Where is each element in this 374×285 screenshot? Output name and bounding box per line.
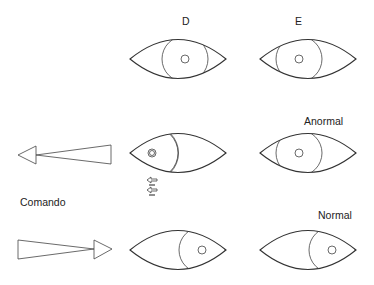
column-label-right-eye: D: [182, 15, 190, 27]
right-eye-abnormal: [124, 126, 227, 181]
left-eye-normal: [260, 227, 356, 273]
column-label-left-eye: E: [295, 15, 302, 27]
arrow-right-icon: [18, 240, 112, 259]
motion-arrows-icon: [147, 177, 157, 195]
eye-diagram: [0, 0, 374, 285]
label-abnormal: Anormal: [304, 115, 343, 127]
label-command: Comando: [20, 196, 66, 208]
right-eye-normal: [130, 227, 226, 273]
right-eye-primary: [130, 36, 226, 82]
label-normal: Normal: [318, 209, 352, 221]
left-eye-primary: [260, 36, 356, 82]
arrow-left-icon: [18, 145, 111, 164]
left-eye-abnormal: [260, 130, 356, 176]
